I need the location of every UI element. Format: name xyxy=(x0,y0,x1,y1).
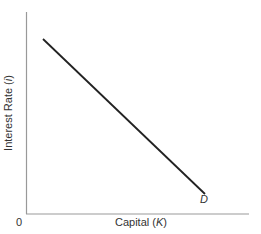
y-axis-label: Interest Rate (i) xyxy=(2,75,14,151)
x-axis-symbol: K xyxy=(156,216,163,228)
x-axis-label-text: Capital xyxy=(115,216,149,228)
y-axis-symbol: i xyxy=(2,79,14,81)
demand-curve xyxy=(43,39,205,194)
origin-label: 0 xyxy=(16,216,22,228)
x-axis-label: Capital (K) xyxy=(115,216,167,228)
curve-label-d: D xyxy=(200,193,208,205)
diagram-canvas xyxy=(0,0,261,234)
y-axis-label-text: Interest Rate xyxy=(2,88,14,151)
